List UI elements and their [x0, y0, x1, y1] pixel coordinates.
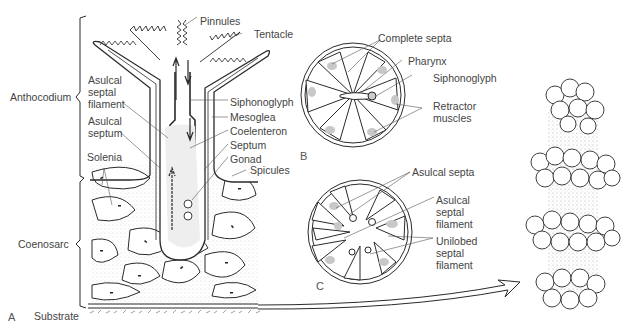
label-pinnules: Pinnules [200, 15, 240, 27]
label-asulcal-septal-filament-c: Asulcal septal filament [436, 194, 473, 230]
label-asulcal-septum: Asulcal septum [88, 115, 122, 139]
spicule-colony-illustration [526, 79, 620, 309]
label-asulcal-septa: Asulcal septa [412, 166, 474, 178]
panel-label-b: B [300, 150, 307, 162]
tentacle-center [177, 20, 187, 45]
label-pharynx: Pharynx [408, 55, 447, 67]
flow-arrow-up [173, 58, 179, 100]
label-unilobed-septal-filament: Unilobed septal filament [436, 235, 477, 271]
tentacle-left [130, 26, 166, 60]
label-septum: Septum [230, 139, 266, 151]
label-coelenteron: Coelenteron [230, 125, 287, 137]
label-spicules: Spicules [250, 164, 290, 176]
panel-label-a: A [8, 311, 15, 323]
asulcal-septal-filament-knob-1 [350, 215, 357, 222]
label-solenia: Solenia [87, 151, 122, 163]
label-mesoglea: Mesoglea [230, 111, 276, 123]
label-siphonoglyph: Siphonoglyph [230, 96, 294, 108]
label-siphonoglyph-b: Siphonoglyph [433, 72, 497, 84]
colony-axis [548, 110, 598, 290]
base-layer [88, 304, 258, 308]
anthocodium-brace [76, 16, 86, 178]
label-retractor-muscles: Retractor muscles [433, 100, 476, 124]
label-asulcal-septal-filament: Asulcal septal filament [88, 74, 125, 110]
panel-c-cross-section [308, 172, 434, 284]
coenosarc-brace [76, 178, 86, 308]
gonad-1 [184, 200, 192, 208]
panel-b-cross-section [301, 40, 422, 147]
siphonoglyph-b [368, 92, 376, 100]
octocoral-anatomy-diagram [0, 0, 626, 333]
pinnules-row-right [210, 58, 246, 62]
arrow-to-colony [258, 280, 520, 309]
gonad-2 [184, 212, 192, 220]
label-anthocodium: Anthocodium [10, 91, 71, 103]
label-substrate: Substrate [34, 310, 79, 322]
label-tentacle: Tentacle [254, 28, 293, 40]
pharynx-b [340, 93, 372, 100]
label-complete-septa: Complete septa [378, 32, 452, 44]
label-coenosarc: Coenosarc [18, 238, 69, 250]
pinnules-row-left [100, 41, 136, 45]
coelenteron-cavity [165, 124, 200, 247]
substrate-texture [90, 310, 260, 313]
panel-label-c: C [316, 280, 324, 292]
